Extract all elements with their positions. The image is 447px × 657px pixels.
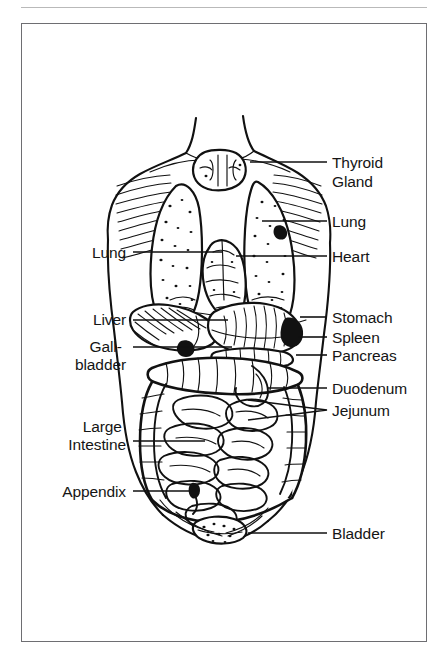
thyroid-gland-organ [193, 150, 246, 191]
label-jejunum: Jejunum [332, 402, 390, 419]
anatomy-figure: Lung Liver Gall- bladder Large Intestine… [0, 0, 447, 657]
label-thyroid-gland: Thyroid Gland [332, 154, 387, 190]
label-pancreas: Pancreas [332, 347, 397, 364]
label-spleen: Spleen [332, 329, 380, 346]
liver-organ [130, 304, 217, 350]
label-liver: Liver [93, 311, 126, 328]
label-duodenum: Duodenum [332, 380, 407, 397]
label-lung-left: Lung [92, 244, 126, 261]
label-heart: Heart [332, 248, 370, 265]
label-lung-right: Lung [332, 213, 366, 230]
label-bladder: Bladder [332, 525, 385, 542]
label-large-intestine: Large Intestine [68, 418, 126, 453]
bladder-organ [193, 517, 247, 544]
label-gallbladder: Gall- bladder [75, 338, 126, 373]
label-stomach: Stomach [332, 309, 392, 326]
label-appendix: Appendix [62, 483, 126, 500]
diagram-page: Lung Liver Gall- bladder Large Intestine… [0, 0, 447, 657]
